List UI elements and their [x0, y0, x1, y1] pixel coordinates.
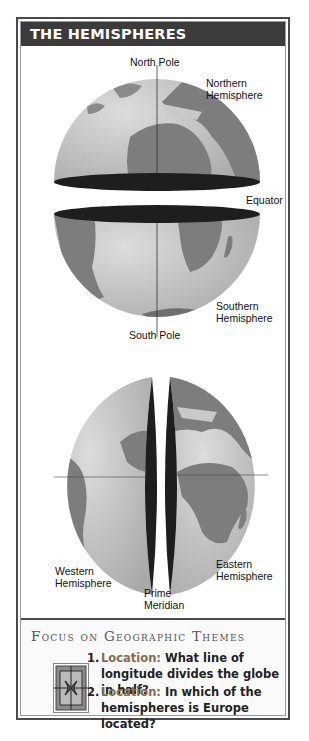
- focus-on-geographic-themes: Focus on Geographic Themes 1. Location: …: [21, 618, 285, 715]
- equator-cut-bottom: [54, 205, 260, 223]
- south-pole-label: South Pole: [129, 329, 180, 341]
- focus-heading: Focus on Geographic Themes: [31, 628, 245, 644]
- equator-cut-top: [54, 173, 260, 191]
- eastern-hemisphere-label: Eastern Hemisphere: [216, 558, 273, 582]
- compass-emblem-icon: [53, 663, 89, 713]
- southern-hemisphere-label: Southern Hemisphere: [216, 300, 273, 324]
- western-hemisphere-label: Western Hemisphere: [55, 565, 112, 589]
- north-pole-label: North Pole: [130, 56, 180, 68]
- question-2: 2. Location: In which of the hemispheres…: [101, 684, 281, 732]
- prime-meridian-label: Prime Meridian: [144, 587, 184, 611]
- western-hemisphere-half: [54, 377, 154, 597]
- equator-label: Equator: [246, 194, 283, 206]
- hemispheres-panel: THE HEMISPHERES: [16, 17, 290, 720]
- northern-hemisphere-label: Northern Hemisphere: [206, 77, 263, 101]
